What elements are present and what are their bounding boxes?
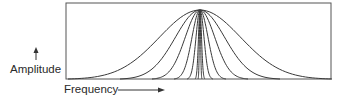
x-axis-label: Frequency bbox=[64, 83, 118, 95]
y-axis-label: Amplitude bbox=[10, 63, 61, 75]
bell-curves bbox=[68, 10, 332, 79]
right-arrow-icon bbox=[118, 88, 165, 93]
up-arrow-icon bbox=[34, 47, 39, 60]
spectral-diagram bbox=[0, 0, 342, 99]
